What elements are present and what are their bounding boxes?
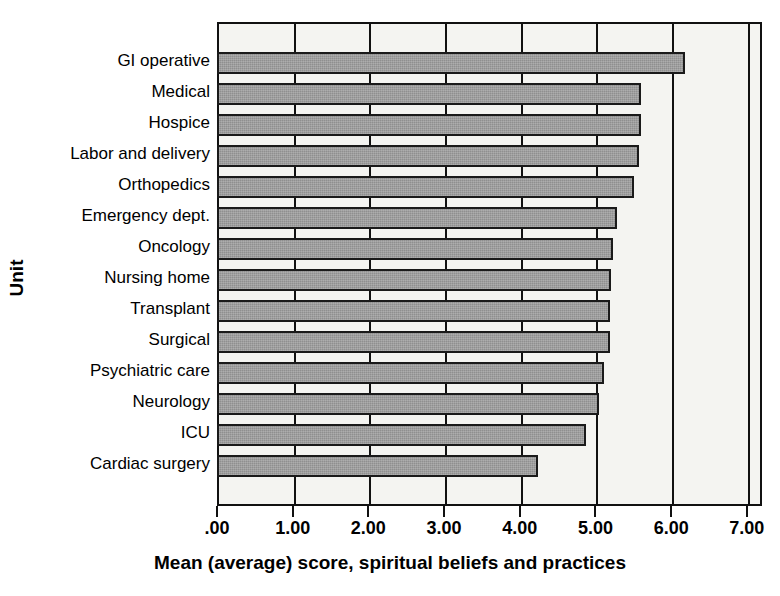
bar — [217, 393, 599, 415]
bar-texture — [219, 333, 608, 351]
bar-texture — [219, 457, 536, 475]
x-tick-label: 1.00 — [258, 518, 328, 539]
bar-texture — [219, 116, 639, 134]
y-tick-label: Labor and delivery — [30, 143, 210, 165]
y-axis-title: Unit — [6, 228, 28, 328]
x-tick-mark — [292, 506, 294, 517]
bar-texture — [219, 426, 584, 444]
y-axis-tick-labels: GI operativeMedicalHospiceLabor and deli… — [30, 22, 210, 506]
x-tick-mark — [216, 506, 218, 517]
x-tick-label: 3.00 — [409, 518, 479, 539]
bar — [217, 362, 604, 384]
y-tick-label: Medical — [30, 81, 210, 103]
y-tick-label: Psychiatric care — [30, 360, 210, 382]
x-tick-label: 5.00 — [560, 518, 630, 539]
bar-texture — [219, 364, 602, 382]
x-axis-tick-labels: .001.002.003.004.005.006.007.00 — [217, 518, 762, 544]
bar-texture — [219, 85, 639, 103]
x-tick-label: 7.00 — [712, 518, 780, 539]
bar-texture — [219, 240, 611, 258]
y-tick-label: ICU — [30, 422, 210, 444]
bar — [217, 455, 538, 477]
y-tick-label: Oncology — [30, 236, 210, 258]
bar — [217, 331, 610, 353]
bar — [217, 269, 611, 291]
bar-texture — [219, 147, 637, 165]
bar-texture — [219, 271, 609, 289]
bar — [217, 83, 641, 105]
x-tick-label: 4.00 — [485, 518, 555, 539]
bar-texture — [219, 395, 597, 413]
gridline-x-6 — [672, 24, 674, 504]
bar — [217, 238, 613, 260]
y-tick-label: Cardiac surgery — [30, 453, 210, 475]
x-tick-mark — [367, 506, 369, 517]
bar — [217, 114, 641, 136]
bar — [217, 145, 639, 167]
x-tick-mark — [670, 506, 672, 517]
x-tick-mark — [519, 506, 521, 517]
bar-texture — [219, 209, 615, 227]
bar — [217, 52, 685, 74]
gridline-x-7 — [748, 24, 750, 504]
bar-texture — [219, 54, 683, 72]
y-tick-label: Orthopedics — [30, 174, 210, 196]
x-tick-mark — [443, 506, 445, 517]
y-tick-label: Neurology — [30, 391, 210, 413]
bar — [217, 424, 586, 446]
x-tick-label: .00 — [182, 518, 252, 539]
y-tick-label: Hospice — [30, 112, 210, 134]
bar-chart: Unit GI operativeMedicalHospiceLabor and… — [0, 0, 780, 596]
bar-texture — [219, 178, 632, 196]
bar — [217, 207, 617, 229]
y-tick-label: Nursing home — [30, 267, 210, 289]
x-tick-label: 6.00 — [636, 518, 706, 539]
x-axis-title: Mean (average) score, spiritual beliefs … — [0, 552, 780, 574]
x-tick-mark — [746, 506, 748, 517]
x-tick-mark — [594, 506, 596, 517]
bar — [217, 176, 634, 198]
bar-texture — [219, 302, 608, 320]
y-tick-label: Transplant — [30, 298, 210, 320]
x-tick-label: 2.00 — [333, 518, 403, 539]
bar — [217, 300, 610, 322]
y-tick-label: GI operative — [30, 50, 210, 72]
y-tick-label: Emergency dept. — [30, 205, 210, 227]
y-tick-label: Surgical — [30, 329, 210, 351]
plot-area — [217, 22, 762, 506]
